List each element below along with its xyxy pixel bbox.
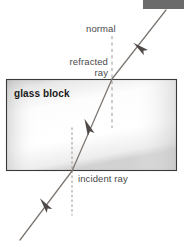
normal-label: normal — [86, 23, 116, 34]
refracted-ray-label: refracted ray — [62, 56, 108, 78]
incident-ray-label: incident ray — [78, 173, 128, 184]
refracted-ray-label-line2: ray — [62, 67, 108, 78]
incident-ray-arrow — [37, 196, 52, 213]
refraction-diagram: normal refracted ray glass block inciden… — [0, 0, 184, 247]
glass-block-label: glass block — [14, 88, 70, 99]
refracted-ray-label-line1: refracted — [62, 56, 108, 67]
corner-tab — [143, 0, 184, 9]
diagram-canvas — [0, 0, 184, 247]
emergent-ray-arrow — [131, 40, 148, 55]
